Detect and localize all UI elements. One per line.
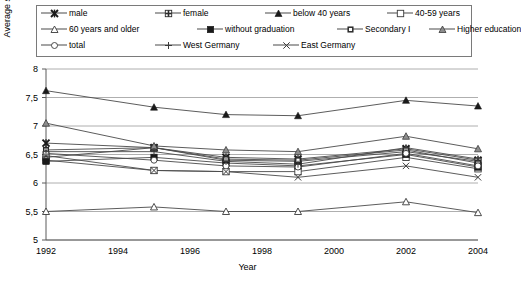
x-tick-label: 2000 (314, 246, 354, 256)
legend-label: below 40 years (293, 8, 350, 18)
series-line-60-years-and-older (46, 202, 478, 213)
x-tick-label: 2002 (386, 246, 426, 256)
legend-item-female[interactable]: female (155, 8, 209, 18)
chart-legend: malefemalebelow 40 years40-59 years60 ye… (36, 5, 472, 57)
legend-marker-triangle-open-icon (41, 24, 67, 34)
legend-label: without graduation (225, 24, 294, 34)
y-tick-label: 7,5 (12, 93, 38, 103)
legend-label: 40-59 years (415, 8, 460, 18)
legend-marker-triangle-solid-icon (265, 8, 291, 18)
legend-label: Secondary I (365, 24, 410, 34)
legend-row: totalWest GermanyEast Germany (37, 40, 471, 56)
legend-item-below-40-years[interactable]: below 40 years (265, 8, 350, 18)
data-point-triangle-solid-icon (43, 87, 50, 94)
y-tick-label: 5,5 (12, 207, 38, 217)
y-tick-label: 6 (12, 178, 38, 188)
legend-label: female (183, 8, 209, 18)
legend-row: 60 years and olderwithout graduationSeco… (37, 24, 471, 40)
legend-marker-x-thin-icon (273, 40, 299, 50)
legend-row: malefemalebelow 40 years40-59 years (37, 8, 471, 24)
x-tick-label: 1992 (26, 246, 66, 256)
x-tick-label: 2004 (458, 246, 498, 256)
y-tick-label: 7 (12, 121, 38, 131)
x-tick-label: 1998 (242, 246, 282, 256)
data-point-triangle-grey-icon (43, 120, 50, 127)
legend-item-higher-education[interactable]: Higher education (429, 24, 521, 34)
legend-item-total[interactable]: total (41, 40, 85, 50)
data-point-circle-open-icon (403, 150, 409, 156)
legend-label: West Germany (183, 40, 240, 50)
legend-label: 60 years and older (69, 24, 139, 34)
series-line-below-40-years (46, 91, 478, 116)
legend-marker-circle-open-icon (41, 40, 67, 50)
legend-marker-square-solid-icon (197, 24, 223, 34)
legend-label: Higher education (457, 24, 521, 34)
data-point-circle-open-icon (151, 157, 157, 163)
legend-marker-triangle-grey-icon (429, 24, 455, 34)
legend-item-secondary-i[interactable]: Secondary I (337, 24, 410, 34)
data-point-triangle-grey-icon (403, 133, 410, 140)
legend-item-60-years-and-older[interactable]: 60 years and older (41, 24, 139, 34)
x-tick-label: 1994 (98, 246, 138, 256)
series-line-higher-education (46, 123, 478, 151)
legend-marker-x-bold-icon (41, 8, 67, 18)
y-tick-label: 8 (12, 64, 38, 74)
legend-label: male (69, 8, 87, 18)
legend-marker-plus-icon (155, 40, 181, 50)
data-point-triangle-open-icon (403, 198, 410, 205)
plot-area: 55,566,577,58199219941996199820002002200… (0, 57, 495, 281)
legend-item-east-germany[interactable]: East Germany (273, 40, 355, 50)
data-point-square-solid-icon (43, 158, 49, 164)
legend-label: total (69, 40, 85, 50)
data-point-circle-open-icon (475, 163, 481, 169)
y-tick-label: 5 (12, 235, 38, 245)
legend-marker-square-small-icon (337, 24, 363, 34)
x-tick-label: 1996 (170, 246, 210, 256)
legend-item-40-59-years[interactable]: 40-59 years (387, 8, 460, 18)
legend-marker-square-grid-icon (155, 8, 181, 18)
legend-marker-square-open-icon (387, 8, 413, 18)
legend-item-west-germany[interactable]: West Germany (155, 40, 240, 50)
legend-item-without-graduation[interactable]: without graduation (197, 24, 294, 34)
legend-label: East Germany (301, 40, 355, 50)
y-tick-label: 6,5 (12, 150, 38, 160)
legend-item-male[interactable]: male (41, 8, 87, 18)
